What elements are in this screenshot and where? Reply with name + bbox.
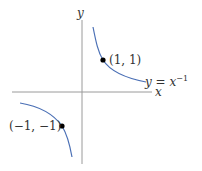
point-label-neg1-neg1: (−1, −1) [9, 119, 61, 133]
point-1-1 [100, 57, 105, 62]
point-label-1-1: (1, 1) [109, 53, 141, 67]
function-label: y = x−1 [144, 74, 188, 89]
hyperbola-plot: y x (1, 1) (−1, −1) y = x−1 [0, 0, 202, 171]
y-axis-label: y [76, 6, 84, 20]
